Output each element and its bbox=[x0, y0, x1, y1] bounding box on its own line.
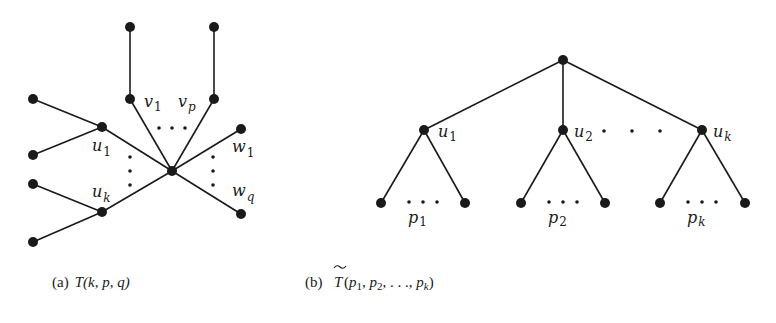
figure-canvas: v1 vp u1 uk w1 wq bbox=[0, 0, 776, 323]
node-leaf bbox=[655, 198, 665, 208]
node bbox=[28, 237, 38, 247]
node-vp bbox=[209, 94, 219, 104]
ellipsis-children bbox=[602, 129, 662, 133]
edge bbox=[521, 130, 563, 203]
node-uk bbox=[697, 125, 707, 135]
label-w1: w1 bbox=[232, 137, 254, 160]
node bbox=[209, 22, 219, 32]
node-leaf bbox=[460, 198, 470, 208]
ellipsis-leaves-2 bbox=[547, 200, 579, 204]
node-leaf bbox=[740, 198, 750, 208]
edge bbox=[33, 212, 102, 242]
caption-b-T: T bbox=[334, 274, 344, 290]
tilde-accent bbox=[334, 266, 346, 269]
svg-text:(b): (b) bbox=[305, 274, 323, 291]
label-wq: wq bbox=[232, 181, 255, 204]
node-root bbox=[558, 55, 568, 65]
label-v1: v1 bbox=[144, 92, 162, 114]
node-leaf bbox=[376, 198, 386, 208]
node-u1 bbox=[419, 125, 429, 135]
caption-a: (a)T(k, p, q) bbox=[52, 274, 130, 291]
label-u1: u1 bbox=[92, 136, 111, 159]
edge bbox=[102, 127, 172, 171]
ellipsis-horizontal-v bbox=[157, 126, 187, 130]
node bbox=[28, 179, 38, 189]
edge bbox=[563, 60, 702, 130]
node bbox=[28, 150, 38, 160]
node bbox=[125, 22, 135, 32]
node-uk bbox=[97, 207, 107, 217]
label-uk: uk bbox=[92, 182, 111, 205]
edge bbox=[33, 99, 102, 127]
label-vp: vp bbox=[178, 92, 196, 114]
graph-a: v1 vp u1 uk w1 wq bbox=[28, 22, 255, 247]
edge bbox=[381, 130, 424, 203]
label-u2: u2 bbox=[574, 122, 593, 144]
label-p2: p2 bbox=[548, 208, 567, 229]
node bbox=[28, 94, 38, 104]
node-leaf bbox=[516, 198, 526, 208]
edge bbox=[424, 60, 563, 130]
node-leaf bbox=[600, 198, 610, 208]
caption-b: (b) T (p1, p2, . . ., pk) bbox=[305, 266, 434, 292]
graph-b: u1 u2 uk p1 p2 pk bbox=[376, 55, 750, 229]
edge bbox=[172, 129, 241, 171]
node-center bbox=[167, 166, 177, 176]
node-v1 bbox=[125, 94, 135, 104]
ellipsis-leaves-k bbox=[686, 200, 718, 204]
node-wq bbox=[236, 209, 246, 219]
label-u1: u1 bbox=[438, 122, 457, 144]
caption-b-args: (p1, p2, . . ., pk) bbox=[344, 274, 434, 292]
label-uk: uk bbox=[713, 122, 732, 144]
label-pk: pk bbox=[687, 208, 706, 229]
edge bbox=[172, 171, 241, 214]
edge bbox=[102, 171, 172, 212]
ellipsis-vertical-u bbox=[128, 155, 132, 187]
edge bbox=[660, 130, 702, 203]
node-u2 bbox=[558, 125, 568, 135]
ellipsis-leaves-1 bbox=[407, 200, 439, 204]
label-p1: p1 bbox=[408, 208, 427, 229]
ellipsis-vertical-w bbox=[211, 155, 215, 187]
node-w1 bbox=[236, 124, 246, 134]
node-u1 bbox=[97, 122, 107, 132]
